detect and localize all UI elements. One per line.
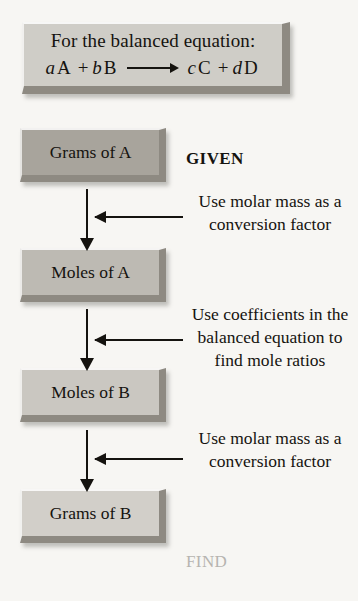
coefficient-a: a — [45, 56, 55, 80]
down-arrow-icon-1 — [86, 189, 88, 249]
down-arrow-icon-3 — [86, 430, 88, 490]
flow-step-label: Grams of A — [50, 142, 132, 164]
flow-step-label: Moles of A — [51, 262, 130, 284]
left-arrow-icon-1 — [95, 216, 183, 218]
find-label: FIND — [186, 551, 354, 573]
flow-step-moles-of-a: Moles of A — [20, 248, 166, 302]
flow-step-moles-of-b: Moles of B — [20, 368, 166, 422]
reaction-arrow-icon — [127, 61, 179, 73]
stoichiometry-flowchart: For the balanced equation: a A + b B c C… — [0, 0, 358, 601]
conversion-note-1: Use molar mass as a conversion factor — [186, 190, 354, 236]
species-a: A — [57, 56, 71, 80]
species-d: D — [244, 56, 258, 80]
flow-step-label: Moles of B — [51, 382, 130, 404]
species-b: B — [104, 56, 117, 80]
flow-step-grams-of-a: Grams of A — [20, 128, 166, 182]
coefficient-b: b — [92, 56, 102, 80]
left-arrow-icon-3 — [95, 458, 183, 460]
left-arrow-icon-2 — [95, 339, 183, 341]
conversion-note-3: Use molar mass as a conversion factor — [186, 427, 354, 473]
balanced-equation-banner: For the balanced equation: a A + b B c C… — [22, 22, 290, 94]
given-label: GIVEN — [186, 148, 354, 170]
flow-step-grams-of-b: Grams of B — [20, 489, 166, 543]
banner-caption: For the balanced equation: — [51, 29, 256, 53]
plus-sign-1: + — [78, 56, 89, 80]
down-arrow-icon-2 — [86, 309, 88, 369]
coefficient-c: c — [188, 56, 196, 80]
coefficient-d: d — [232, 56, 242, 80]
balanced-equation: a A + b B c C + d D — [45, 56, 260, 80]
conversion-note-2: Use coefficients in the balanced equatio… — [186, 303, 354, 371]
plus-sign-2: + — [218, 56, 229, 80]
species-c: C — [198, 56, 211, 80]
flow-step-label: Grams of B — [50, 503, 132, 525]
